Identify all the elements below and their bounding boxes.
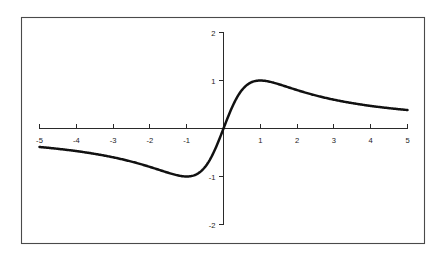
- x-tick-label: -5: [36, 136, 43, 145]
- chart-figure: -5-4-3-2-11234521-1-2: [0, 0, 444, 259]
- x-tick-label: -1: [183, 136, 190, 145]
- y-tick-label: -2: [209, 221, 216, 230]
- plot-canvas: -5-4-3-2-11234521-1-2: [0, 0, 444, 259]
- y-tick-label: -1: [209, 173, 216, 182]
- y-tick-label: 2: [211, 29, 215, 38]
- x-tick-label: 2: [295, 136, 299, 145]
- x-tick-label: -4: [73, 136, 80, 145]
- x-tick-label: 1: [258, 136, 262, 145]
- x-tick-label: -2: [147, 136, 154, 145]
- x-tick-label: 4: [369, 136, 373, 145]
- x-tick-label: 5: [405, 136, 409, 145]
- x-tick-label: -3: [110, 136, 117, 145]
- x-tick-label: 3: [332, 136, 336, 145]
- y-tick-label: 1: [211, 77, 215, 86]
